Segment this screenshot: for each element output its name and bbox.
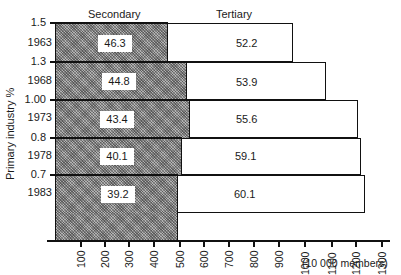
band-separator: [50, 174, 178, 176]
year-label: 1983: [12, 186, 52, 198]
x-tick: [128, 242, 130, 247]
x-tick-label: 200: [99, 250, 111, 268]
year-label: 1973: [12, 111, 52, 123]
x-tick-label: 400: [148, 250, 160, 268]
x-tick: [304, 242, 306, 247]
tertiary-value-1973: 55.6: [236, 113, 257, 125]
secondary-header: Secondary: [88, 8, 141, 20]
x-tick: [228, 242, 230, 247]
primary-pct-label: 0.7: [6, 168, 46, 180]
year-label: 1963: [12, 36, 52, 48]
x-tick: [355, 242, 357, 247]
x-tick: [381, 242, 383, 247]
x-tick-label: 500: [174, 250, 186, 268]
band-separator: [50, 22, 168, 24]
bar-tertiary-1973: [190, 100, 358, 138]
primary-pct-label: 1.3: [6, 55, 46, 67]
primary-pct-label: 0.8: [6, 131, 46, 143]
secondary-value-1968: 44.8: [102, 73, 136, 90]
tertiary-value-1963: 52.2: [236, 37, 257, 49]
x-tick-label: 600: [198, 250, 210, 268]
x-tick-label: 100: [75, 250, 87, 268]
secondary-value-1963: 46.3: [98, 35, 132, 52]
secondary-value-1973: 43.4: [100, 111, 134, 128]
primary-pct-label: 1.00: [6, 93, 46, 105]
bar-tertiary-1978: [182, 138, 361, 175]
x-tick: [179, 242, 181, 247]
tertiary-value-1978: 59.1: [235, 150, 256, 162]
band-separator: [50, 61, 187, 63]
secondary-value-1983: 39.2: [101, 186, 135, 203]
x-tick-label: 300: [123, 250, 135, 268]
x-tick: [331, 242, 333, 247]
x-axis-title: (10 000 members): [302, 257, 388, 269]
secondary-value-1978: 40.1: [100, 148, 134, 165]
x-tick-label: 700: [223, 250, 235, 268]
x-tick: [153, 242, 155, 247]
x-tick-label: 900: [273, 250, 285, 268]
tertiary-value-1983: 60.1: [234, 188, 255, 200]
x-tick: [278, 242, 280, 247]
band-separator: [50, 137, 182, 139]
tertiary-header: Tertiary: [216, 8, 252, 20]
year-label: 1968: [12, 74, 52, 86]
primary-pct-label: 1.5: [6, 16, 46, 28]
tertiary-value-1968: 53.9: [236, 76, 257, 88]
x-tick: [253, 242, 255, 247]
year-label: 1978: [12, 149, 52, 161]
bar-tertiary-1983: [178, 175, 365, 213]
x-tick: [80, 242, 82, 247]
x-axis-line: [47, 240, 390, 242]
bar-tertiary-1963: [168, 23, 293, 62]
x-tick: [104, 242, 106, 247]
band-separator: [50, 99, 190, 101]
x-tick: [203, 242, 205, 247]
x-tick-label: 800: [248, 250, 260, 268]
